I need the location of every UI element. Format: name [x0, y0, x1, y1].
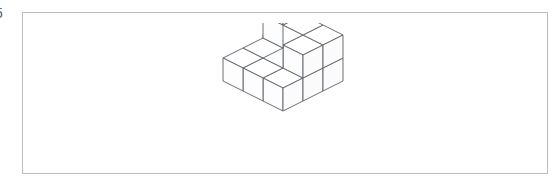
image-canvas: 5 — [0, 0, 560, 191]
edge-label-text: 5 — [0, 4, 7, 22]
figure-panel — [22, 12, 548, 174]
isometric-cube-stack-figure — [213, 23, 353, 163]
figure-area — [23, 13, 549, 175]
